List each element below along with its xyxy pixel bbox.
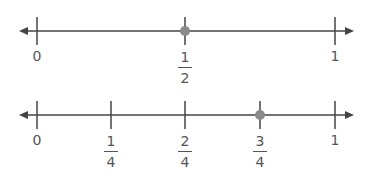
fraction-label: 24 — [178, 134, 192, 169]
numerator: 3 — [256, 134, 265, 148]
fraction-bar — [178, 151, 192, 152]
numerator: 2 — [181, 134, 190, 148]
tick-label: 0 — [33, 133, 42, 147]
tick-label: 0 — [33, 49, 42, 63]
right-arrow-icon — [345, 111, 354, 119]
denominator: 4 — [256, 155, 265, 169]
left-arrow-icon — [19, 27, 28, 35]
plotted-point — [180, 26, 190, 36]
numerator: 1 — [107, 134, 116, 148]
fraction-bar — [253, 151, 267, 152]
fraction-bar — [178, 67, 192, 68]
left-arrow-icon — [19, 111, 28, 119]
fraction-label: 34 — [253, 134, 267, 169]
denominator: 4 — [181, 155, 190, 169]
denominator: 2 — [181, 71, 190, 85]
fraction-bar — [104, 151, 118, 152]
fraction-label: 12 — [178, 50, 192, 85]
denominator: 4 — [107, 155, 116, 169]
right-arrow-icon — [345, 27, 354, 35]
numerator: 1 — [181, 50, 190, 64]
tick-label: 1 — [331, 133, 340, 147]
fraction-label: 14 — [104, 134, 118, 169]
plotted-point — [255, 110, 265, 120]
tick-label: 1 — [331, 49, 340, 63]
